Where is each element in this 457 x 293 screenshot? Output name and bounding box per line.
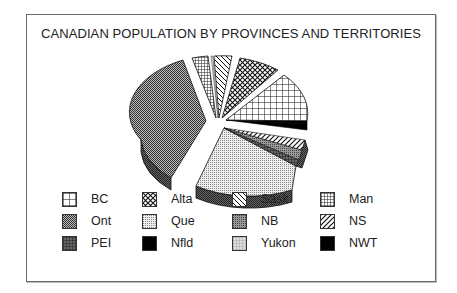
sask-swatch-icon [232,192,247,207]
legend-item-nwt: NWT [320,234,377,252]
que-swatch-icon [142,214,157,229]
legend-label: Ont [91,214,111,228]
bc-swatch-icon [62,192,77,207]
nwt-swatch-icon [320,236,335,251]
legend-label: Yukon [261,236,296,250]
legend-label: PEI [91,236,111,250]
ns-swatch-icon [320,214,335,229]
nfld-swatch-icon [142,236,157,251]
legend-label: NWT [349,236,377,250]
legend-label: Sask [261,192,289,206]
legend-item-bc: BC [62,190,108,208]
legend-item-alta: Alta [142,190,193,208]
legend-label: NB [261,214,278,228]
legend-item-ont: Ont [62,212,111,230]
man-swatch-icon [320,192,335,207]
yukon-swatch-icon [232,236,247,251]
legend-item-sask: Sask [232,190,289,208]
legend-label: Man [349,192,373,206]
legend-label: Nfld [171,236,193,250]
legend-item-yukon: Yukon [232,234,296,252]
chart-legend: BC Ont PEI Alta Que Nfld Sask NB Yukon M… [62,190,362,256]
legend-label: NS [349,214,366,228]
legend-label: Alta [171,192,193,206]
legend-item-nb: NB [232,212,278,230]
legend-item-que: Que [142,212,195,230]
legend-label: Que [171,214,195,228]
legend-item-ns: NS [320,212,366,230]
pei-swatch-icon [62,236,77,251]
legend-item-nfld: Nfld [142,234,193,252]
ont-swatch-icon [62,214,77,229]
nb-swatch-icon [232,214,247,229]
legend-label: BC [91,192,108,206]
legend-item-man: Man [320,190,373,208]
slice-ont [129,60,206,178]
alta-swatch-icon [142,192,157,207]
legend-item-pei: PEI [62,234,111,252]
